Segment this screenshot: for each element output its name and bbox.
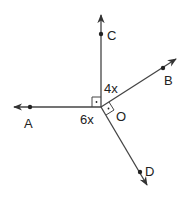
point-a [28,105,32,109]
right-angle-mark-aoc [92,97,101,107]
right-angle-mark-bod [106,102,114,115]
angle-label-6x: 6x [80,112,94,127]
label-c: C [107,28,116,43]
label-d: D [145,164,154,179]
label-o: O [116,109,126,124]
geometry-diagram: C B D A O 4x 6x [0,0,187,199]
point-d [138,170,142,174]
point-c [99,32,103,36]
point-b [161,66,165,70]
label-a: A [24,116,33,131]
angle-label-4x: 4x [104,81,118,96]
label-b: B [164,73,173,88]
